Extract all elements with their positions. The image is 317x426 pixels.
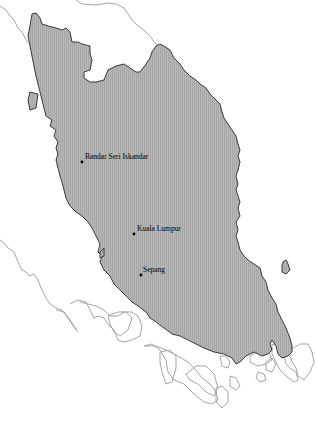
city-marker-icon: [133, 233, 136, 236]
batam-island: [266, 358, 276, 372]
riau-island-7: [256, 372, 266, 382]
city-label: Bandar Seri Iskandar: [85, 152, 149, 161]
riau-island-3: [186, 366, 218, 396]
tioman-island: [282, 260, 290, 274]
city-label: Kuala Lumpur: [137, 224, 181, 233]
riau-island-5: [230, 376, 240, 390]
riau-island-1: [144, 344, 218, 404]
thailand-border: [76, 0, 158, 46]
city-marker-icon: [81, 161, 84, 164]
bintan-large-island: [290, 344, 314, 380]
city-marker-icon: [140, 274, 143, 277]
riau-island-6: [220, 356, 230, 368]
city-label: Sepang: [143, 265, 165, 274]
peninsular-malaysia: [28, 13, 292, 364]
sumatra-coast: [0, 240, 76, 330]
penang-island: [28, 92, 38, 110]
map-canvas: Bandar Seri Iskandar Kuala Lumpur Sepang: [0, 0, 317, 426]
